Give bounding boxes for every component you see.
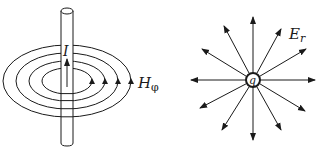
wire-top-cap	[61, 8, 73, 14]
current-label: I	[62, 43, 69, 59]
arrow-up-icon	[89, 78, 95, 84]
arrow-up-icon	[115, 78, 121, 84]
h-field-label: Hφ	[137, 74, 159, 94]
field-direction-arrows	[89, 78, 134, 84]
figure-canvas: I Hφ q Er	[0, 0, 318, 152]
e-field-label: Er	[288, 25, 306, 45]
arrow-up-icon	[128, 78, 134, 84]
charge-label: q	[249, 74, 256, 87]
magnetic-field-diagram	[3, 8, 134, 146]
arrow-up-icon	[102, 78, 108, 84]
